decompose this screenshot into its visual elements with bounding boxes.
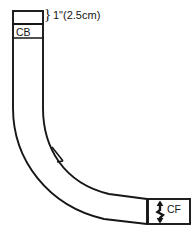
pattern-diagram-canvas: } 1"(2.5cm) CB CF (0, 0, 193, 238)
notch-tick-barb-icon (57, 161, 63, 162)
curved-band-shape (13, 24, 147, 224)
seam-allowance-rect (13, 11, 43, 24)
dimension-label: 1"(2.5cm) (53, 9, 100, 22)
dimension-brace-icon: } (44, 7, 51, 22)
center-back-label: CB (16, 27, 31, 38)
center-front-label: CF (167, 204, 181, 215)
